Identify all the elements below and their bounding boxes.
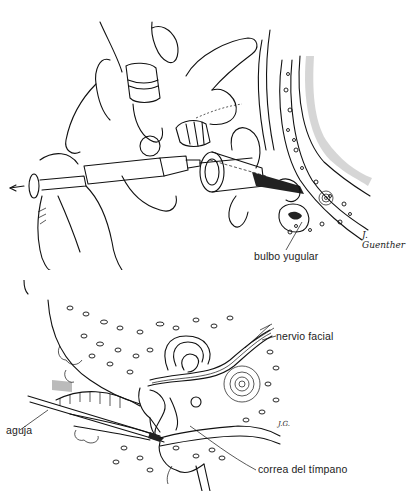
syringe-aspiration-drawing <box>0 0 410 270</box>
label-nervio-facial: nervio facial <box>276 330 333 342</box>
artist-signature: J. Guenther <box>362 230 410 250</box>
artist-initials: J.G. <box>278 420 290 428</box>
temporal-bone-cross-section <box>0 280 410 491</box>
label-correa-del-timpano: correa del tímpano <box>258 463 347 475</box>
illustration-top-panel: bulbo yugular J. Guenther <box>0 0 410 270</box>
label-bulbo-yugular: bulbo yugular <box>254 250 318 262</box>
illustration-bottom-panel: nervio facial aguja correa del tímpano J… <box>0 280 410 491</box>
label-aguja: aguja <box>6 424 32 436</box>
